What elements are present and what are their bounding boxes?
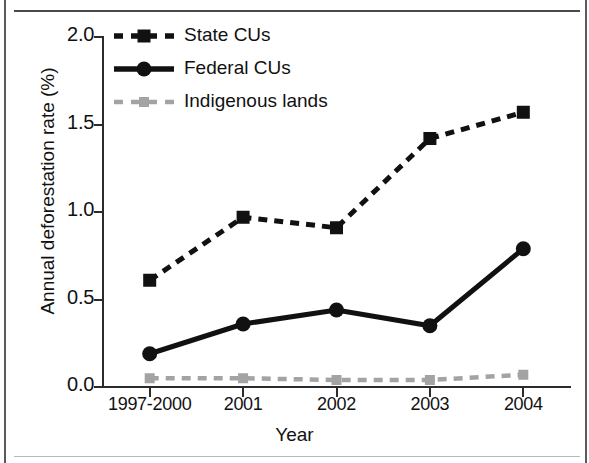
series-marker	[516, 241, 531, 256]
legend-item-1: Federal CUs	[112, 55, 372, 88]
legend-label-federal-cus: Federal CUs	[184, 57, 291, 79]
legend-marker-state-cus	[112, 22, 176, 50]
series-marker	[237, 211, 250, 224]
series-marker	[142, 346, 157, 361]
series-line	[150, 249, 524, 354]
series-marker	[332, 375, 342, 385]
series-marker	[143, 274, 156, 287]
series-marker	[236, 317, 251, 332]
series-marker	[238, 373, 248, 383]
series-marker	[422, 318, 437, 333]
series-line	[150, 112, 524, 280]
series-marker	[425, 375, 435, 385]
legend-marker-glyph	[138, 30, 151, 43]
legend-item-2: Indigenous lands	[112, 88, 372, 121]
chart-figure: 0.00.51.01.52.0 1997-2000200120022003200…	[0, 0, 589, 463]
legend-marker-indigenous-lands	[112, 88, 176, 116]
legend-marker-glyph	[139, 97, 149, 107]
series-marker	[145, 373, 155, 383]
series-marker	[330, 221, 343, 234]
series-marker	[517, 106, 530, 119]
chart-legend: State CUs Federal CUs Indigenous lands	[112, 22, 372, 121]
legend-marker-federal-cus	[112, 55, 176, 83]
legend-marker-glyph	[137, 62, 152, 77]
legend-label-state-cus: State CUs	[184, 24, 271, 46]
legend-item-0: State CUs	[112, 22, 372, 55]
series-marker	[423, 132, 436, 145]
series-marker	[329, 303, 344, 318]
series-marker	[518, 370, 528, 380]
legend-label-indigenous-lands: Indigenous lands	[184, 90, 328, 112]
